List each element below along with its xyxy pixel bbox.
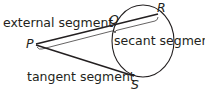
point-s-label: S	[131, 77, 139, 92]
tangent-segment-label: tangent segment	[27, 69, 135, 84]
point-q-label: Q	[109, 12, 119, 27]
secant-tangent-diagram: external segment secant segment tangent …	[0, 0, 205, 94]
point-r-label: R	[157, 0, 166, 15]
point-p-label: P	[26, 36, 34, 51]
external-segment-label: external segment	[3, 15, 113, 30]
secant-segment-label: secant segment	[114, 33, 205, 48]
